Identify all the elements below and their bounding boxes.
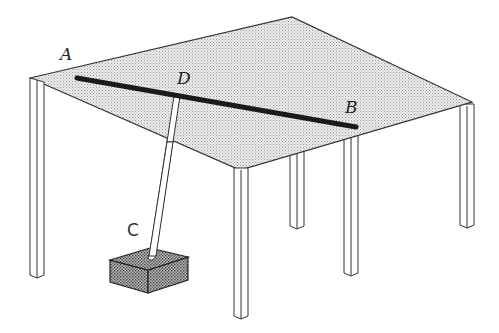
table-leg-middle-right	[344, 135, 358, 276]
table-leg-front-left	[30, 78, 44, 278]
physics-diagram: A D B C	[0, 0, 499, 333]
label-A: A	[58, 44, 72, 64]
label-C: C	[127, 220, 139, 240]
label-D: D	[176, 68, 191, 88]
table-leg-back-left	[290, 147, 304, 229]
strut-DC-mid	[149, 142, 173, 256]
table-leg-front	[234, 168, 248, 319]
table-leg-right	[460, 104, 474, 228]
label-B: B	[344, 97, 358, 117]
table-top	[30, 17, 472, 170]
